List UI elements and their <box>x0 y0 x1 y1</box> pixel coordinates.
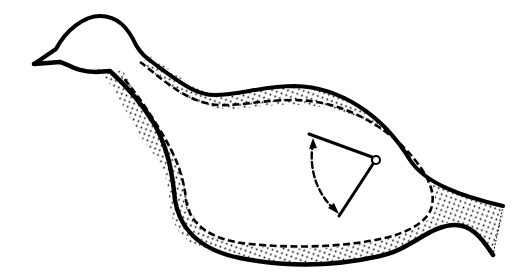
bird-diagram <box>0 0 531 276</box>
stippled-wall-layer <box>36 16 505 264</box>
pivot-circle-icon <box>372 156 380 164</box>
diagram-canvas: bird-shaped body outline <box>0 0 531 276</box>
